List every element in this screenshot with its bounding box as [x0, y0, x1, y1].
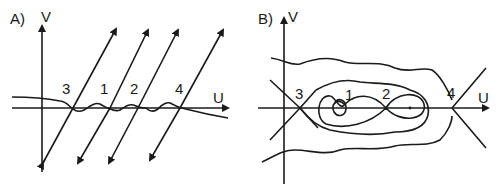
- panel-a-point-1: 1: [100, 80, 108, 97]
- panel-a-manifold-1-down: [78, 108, 110, 163]
- panel-b-point-2: 2: [382, 85, 390, 102]
- panel-a-manifold-1-up: [110, 30, 148, 108]
- panel-b-center-2: [409, 107, 412, 110]
- panel-b-point-4: 4: [447, 84, 455, 101]
- panel-b-label: B): [258, 10, 273, 27]
- panel-b-saddle-3: [270, 80, 318, 140]
- panel-a-point-4: 4: [175, 80, 183, 97]
- phase-portraits: A) V U 3 1 2 4 B) V U: [0, 0, 498, 192]
- panel-a-manifold-2-up: [138, 30, 178, 108]
- panel-a-manifold-2-down: [109, 108, 138, 163]
- panel-a-manifold-4-down: [150, 108, 180, 160]
- panel-a-u-axis-label: U: [213, 89, 224, 106]
- panel-b-point-1: 1: [345, 86, 353, 103]
- panel-b-figure-eight-separatrix: [319, 95, 425, 127]
- panel-a: A) V U 3 1 2 4: [10, 8, 228, 172]
- panel-a-label: A): [10, 10, 25, 27]
- panel-a-point-3: 3: [62, 80, 70, 97]
- panel-a-point-2: 2: [130, 80, 138, 97]
- panel-a-v-axis-label: V: [41, 8, 51, 25]
- panel-b: B) V U 3 1 2 4: [258, 8, 489, 184]
- panel-b-v-axis-label: V: [288, 8, 298, 25]
- panel-b-point-3: 3: [295, 85, 303, 102]
- panel-b-u-axis-label: U: [478, 89, 489, 106]
